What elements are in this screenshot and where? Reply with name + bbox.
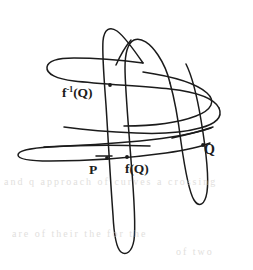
f-of-Q-point-dot <box>125 155 129 159</box>
curve-diagram-figure: and q approach of curves a crossing are … <box>0 0 253 270</box>
label-f-inverse-arg: (Q) <box>73 85 92 100</box>
P-point-dot <box>105 156 109 160</box>
bleed-through-text-row-3: of two <box>176 246 214 257</box>
bleed-through-text-row-1: and q approach of curves a crossing <box>4 176 217 187</box>
label-f-of-q: f(Q) <box>125 162 149 176</box>
label-f-inverse-of-q: f-1(Q) <box>62 86 92 100</box>
f-inverse-Q-point-dot <box>108 83 112 87</box>
upper-band-inner-return-stroke <box>124 72 212 126</box>
upper-loop-right-sweep-stroke <box>64 108 220 133</box>
label-p: P <box>89 163 97 177</box>
label-q: Q <box>204 143 215 157</box>
bleed-through-text-row-2: are of their the for the <box>12 228 147 239</box>
